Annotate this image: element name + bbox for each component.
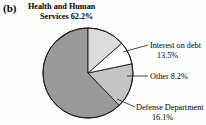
pie-svg: Health and Human Services 62.2%Defense D… [0, 0, 206, 125]
leader-line-interest-on-debt [123, 45, 148, 52]
pie-slices: Health and Human Services 62.2%Defense D… [43, 28, 133, 118]
pie-chart-figure: (b) Health and Human Services 62.2% Inte… [0, 0, 206, 125]
